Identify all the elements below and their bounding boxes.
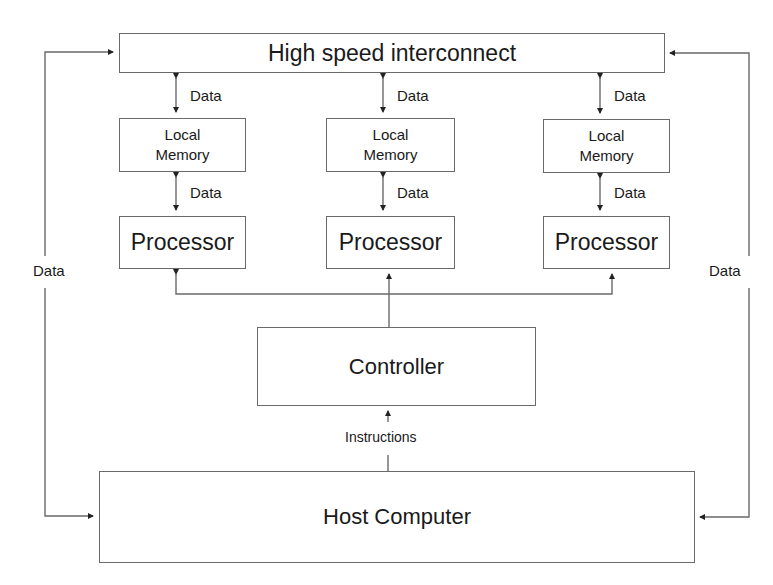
left-data-loop-upper [45,52,113,256]
data-label-interconnect-memory-middle: Data [397,87,429,104]
instructions-label: Instructions [345,429,417,445]
right-data-loop-lower [700,288,749,517]
interconnect-box: High speed interconnect [119,33,665,73]
data-label-interconnect-memory-left: Data [190,87,222,104]
host-computer-label: Host Computer [323,504,471,530]
host-computer-box: Host Computer [99,471,695,563]
local-memory-label-line2: Memory [363,145,417,165]
data-label-memory-processor-right: Data [614,184,646,201]
local-memory-box-left: Local Memory [119,118,246,172]
local-memory-label-line1: Local [589,126,625,146]
local-memory-label-line1: Local [165,125,201,145]
controller-label: Controller [349,354,444,380]
controller-box: Controller [257,327,536,406]
data-label-memory-processor-left: Data [190,184,222,201]
processor-box-right: Processor [543,216,670,269]
processor-label: Processor [555,229,659,256]
processor-box-left: Processor [119,216,246,269]
data-label-left-loop: Data [33,262,65,279]
processor-label: Processor [131,229,235,256]
local-memory-label-line1: Local [373,125,409,145]
data-label-memory-processor-middle: Data [397,184,429,201]
local-memory-box-middle: Local Memory [326,118,455,172]
data-label-right-loop: Data [709,262,741,279]
processor-label: Processor [339,229,443,256]
local-memory-box-right: Local Memory [543,119,670,173]
right-data-loop-upper [670,53,749,256]
local-memory-label-line2: Memory [155,145,209,165]
data-label-interconnect-memory-right: Data [614,87,646,104]
local-memory-label-line2: Memory [579,146,633,166]
processor-box-middle: Processor [326,216,455,269]
interconnect-label: High speed interconnect [268,40,516,67]
left-data-loop-lower [45,288,93,516]
controller-bus [176,274,612,294]
